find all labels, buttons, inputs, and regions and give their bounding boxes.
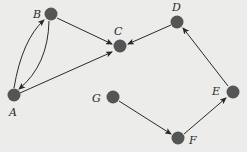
label-c: C xyxy=(114,25,123,38)
label-g: G xyxy=(92,92,101,105)
label-a: A xyxy=(8,106,17,119)
edge-e-to-d xyxy=(183,28,228,86)
node-b xyxy=(45,8,58,21)
graph-canvas: A B C D E F G xyxy=(0,0,247,152)
edge-d-to-c xyxy=(128,25,171,44)
node-f xyxy=(172,132,185,145)
edge-g-to-f xyxy=(119,101,171,134)
edge-f-to-e xyxy=(184,98,226,134)
edge-b-to-c xyxy=(57,18,112,44)
label-d: D xyxy=(171,1,181,14)
edge-a-to-b xyxy=(14,20,44,88)
label-b: B xyxy=(32,8,41,21)
node-e xyxy=(227,86,240,99)
label-f: F xyxy=(188,134,197,147)
node-a xyxy=(8,89,21,102)
node-c xyxy=(114,40,127,53)
label-e: E xyxy=(211,85,220,98)
node-g xyxy=(107,91,120,104)
node-d xyxy=(171,16,184,29)
